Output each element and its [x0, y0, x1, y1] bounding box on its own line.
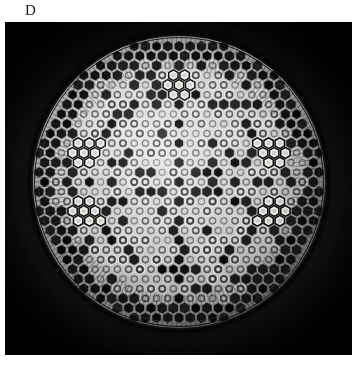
figure-panel: D: [0, 0, 362, 370]
valve-lattice: [31, 34, 327, 330]
panel-label: D: [25, 1, 36, 19]
diatom-valve: [31, 34, 327, 330]
micrograph-image: [5, 22, 352, 355]
